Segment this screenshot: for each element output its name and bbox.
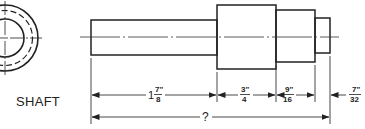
svg-text:7": 7" xyxy=(352,85,360,94)
dimension-label-2: 3" 4 xyxy=(240,85,250,104)
svg-text:16: 16 xyxy=(283,95,292,104)
dimension-label-4: 7" 32 xyxy=(349,85,361,104)
svg-text:7": 7" xyxy=(155,85,163,94)
svg-text:4: 4 xyxy=(242,95,247,104)
shaft-drawing: 1 7" 8 3" 4 9" 16 7" 32 ? xyxy=(0,0,365,129)
dimension-label-1: 1 7" 8 xyxy=(148,85,163,104)
drawing-title: SHAFT xyxy=(16,94,60,109)
svg-text:32: 32 xyxy=(350,95,359,104)
dimension-lines xyxy=(92,95,346,117)
end-view xyxy=(0,1,42,75)
overall-dimension-label: ? xyxy=(202,110,209,124)
dimension-label-3: 9" 16 xyxy=(282,85,294,104)
svg-text:9": 9" xyxy=(285,85,293,94)
svg-text:8: 8 xyxy=(156,95,161,104)
extension-lines xyxy=(91,56,330,124)
svg-text:3": 3" xyxy=(241,85,249,94)
svg-text:1: 1 xyxy=(148,89,154,101)
